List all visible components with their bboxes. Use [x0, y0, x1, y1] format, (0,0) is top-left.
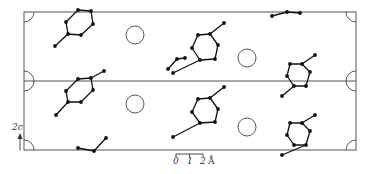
- substituent-atom: [171, 71, 175, 75]
- ring-atom: [292, 143, 296, 147]
- ring-atom: [89, 76, 93, 80]
- ring-atom: [285, 133, 289, 137]
- scale-label-0: 0: [173, 156, 179, 166]
- ring-atom: [300, 62, 304, 66]
- circle-3: [126, 95, 144, 113]
- ring-atom: [288, 121, 292, 125]
- ring-bond: [215, 109, 218, 122]
- fragment-atom: [92, 149, 96, 153]
- fragment-atom: [298, 11, 302, 15]
- ring-bond: [306, 72, 310, 86]
- ring-bond: [192, 35, 198, 48]
- substituent-atom: [222, 21, 226, 25]
- arc-top-right: [346, 12, 356, 22]
- ring-bond: [210, 98, 218, 109]
- ring-bond: [68, 34, 81, 35]
- ring-atom: [64, 20, 68, 24]
- ring-atom: [285, 74, 289, 78]
- ring-bond: [91, 11, 93, 24]
- arc-top-left: [24, 12, 34, 22]
- ring-bond: [78, 10, 91, 11]
- axis-arrow-head: [18, 133, 23, 139]
- ring-bond: [81, 90, 93, 102]
- ring-atom: [198, 121, 202, 125]
- ring-atom: [300, 121, 304, 125]
- ring-atom: [304, 84, 308, 88]
- arc-bottom-left: [24, 140, 34, 150]
- ring-bond: [192, 99, 198, 112]
- fragment-atom: [285, 10, 289, 14]
- substituent-bond: [210, 87, 224, 98]
- ring-atom: [64, 89, 68, 93]
- circle-4: [238, 118, 256, 136]
- substituent-atom: [313, 53, 317, 57]
- substituent-bond: [210, 23, 224, 34]
- ring-atom: [216, 107, 220, 111]
- ring-atom: [91, 22, 95, 26]
- ring-bond: [200, 122, 215, 123]
- substituent-atom: [280, 153, 284, 157]
- fragment-atom: [270, 14, 274, 18]
- substituent-bond: [302, 55, 315, 64]
- ring-bond: [215, 45, 218, 59]
- substituent-atom: [53, 44, 57, 48]
- ring-atom: [91, 88, 95, 92]
- arc-bottom-right: [346, 140, 356, 150]
- substituent-bond: [91, 71, 104, 78]
- ring-atom: [190, 46, 194, 50]
- substituent-bond: [173, 60, 200, 73]
- substituent-bond: [55, 34, 68, 46]
- ring-atom: [79, 33, 83, 37]
- fragment-bond: [272, 12, 287, 16]
- ring-atom: [288, 62, 292, 66]
- ring-atom: [196, 33, 200, 37]
- axis-indicator: 2c: [11, 122, 23, 150]
- fragment-bond: [94, 138, 106, 151]
- fragment-atom: [175, 57, 179, 61]
- ring-bond: [210, 34, 218, 45]
- fragment-bond: [168, 59, 177, 69]
- ring-atom: [216, 43, 220, 47]
- ring-atom: [89, 9, 93, 13]
- molecules-layer: [53, 8, 317, 157]
- substituent-atom: [280, 94, 284, 98]
- ring-atom: [208, 96, 212, 100]
- substituent-atom: [102, 69, 106, 73]
- ring-atom: [66, 32, 70, 36]
- ring-atom: [196, 97, 200, 101]
- substituent-atom: [171, 135, 175, 139]
- ring-atom: [76, 8, 80, 12]
- fragment-atom: [76, 146, 80, 150]
- ring-atom: [308, 70, 312, 74]
- ring-atom: [79, 100, 83, 104]
- substituent-atom: [313, 113, 317, 117]
- ring-bond: [81, 24, 93, 35]
- ring-bond: [306, 131, 310, 145]
- substituent-bond: [56, 102, 68, 115]
- ring-atom: [304, 143, 308, 147]
- ring-atom: [213, 57, 217, 61]
- circle-2: [238, 49, 256, 67]
- ring-atom: [208, 32, 212, 36]
- fragment-atom: [183, 56, 187, 60]
- ring-atom: [76, 77, 80, 81]
- axis-label: 2c: [11, 122, 23, 132]
- ring-bond: [78, 78, 91, 79]
- substituent-bond: [173, 123, 200, 137]
- ring-bond: [192, 112, 200, 123]
- fragment-atom: [104, 136, 108, 140]
- scale-label-1: 1: [187, 156, 193, 166]
- ring-bond: [192, 48, 200, 60]
- substituent-bond: [282, 86, 294, 96]
- ring-atom: [308, 129, 312, 133]
- crystal-structure-diagram: 2c 0 1 2 Å: [0, 0, 369, 174]
- scale-label-2: 2: [199, 156, 206, 166]
- substituent-atom: [54, 113, 58, 117]
- circle-1: [126, 26, 144, 44]
- ring-bond: [200, 59, 215, 60]
- ring-atom: [198, 58, 202, 62]
- ring-atom: [66, 100, 70, 104]
- substituent-bond: [302, 115, 315, 123]
- scale-unit: Å: [207, 155, 215, 166]
- scale-bar: 0 1 2 Å: [173, 154, 215, 166]
